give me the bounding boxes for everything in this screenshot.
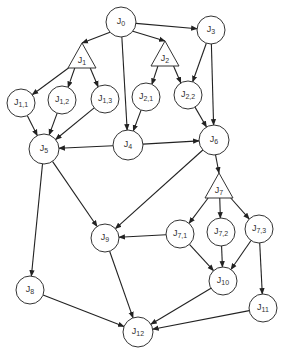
edge-j3-to-j2-2 <box>193 43 207 82</box>
edge-j0-to-j2 <box>133 31 165 41</box>
node-j12: J12 <box>123 317 153 347</box>
node-j5: J5 <box>29 134 59 164</box>
node-j2-2: J2,2 <box>174 81 202 109</box>
edge-j0-to-j4 <box>122 37 127 130</box>
edge-j0-to-j3 <box>136 23 197 28</box>
edge-j2-to-j2-1 <box>152 66 158 84</box>
node-j1-1: J1,1 <box>7 89 35 117</box>
edge-j10-to-j12 <box>151 288 211 324</box>
edge-j4-to-j6 <box>143 141 199 144</box>
node-j0: J0 <box>106 7 136 37</box>
edge-j6-to-j7 <box>216 155 219 173</box>
node-j2: J2 <box>151 41 179 66</box>
node-j2-1: J2,1 <box>132 83 160 111</box>
node-j3: J3 <box>197 16 225 44</box>
edge-j1-2-to-j5 <box>49 113 57 135</box>
edge-j7-1-to-j9 <box>119 235 166 238</box>
edge-j7-3-to-j11 <box>260 243 263 294</box>
edge-j3-to-j6 <box>211 44 213 125</box>
edge-j9-to-j12 <box>110 251 133 318</box>
node-j8: J8 <box>16 276 44 304</box>
edge-j7-to-j7-2 <box>220 198 221 218</box>
edge-j1-to-j1-3 <box>90 68 98 87</box>
edge-j5-to-j8 <box>31 164 42 276</box>
node-j6: J6 <box>199 125 229 155</box>
edge-j8-to-j12 <box>43 295 124 326</box>
node-j4: J4 <box>113 130 143 160</box>
edge-j5-to-j9 <box>52 161 97 226</box>
nodes-layer: J0J1J2J3J1,1J1,2J1,3J2,1J2,2J4J5J6J7J7,1… <box>7 7 277 347</box>
node-j1-2: J1,2 <box>48 86 76 114</box>
node-j9: J9 <box>91 224 119 252</box>
edge-j0-to-j1 <box>82 32 110 43</box>
edge-j2-1-to-j4 <box>133 110 141 131</box>
edge-j7-to-j7-1 <box>189 198 208 223</box>
edge-j1-to-j1-2 <box>68 68 75 87</box>
node-j7: J7 <box>205 173 233 198</box>
node-j10: J10 <box>209 267 237 295</box>
edge-j11-to-j12 <box>153 311 250 330</box>
node-j11: J11 <box>249 294 277 322</box>
edge-j7-1-to-j10 <box>189 244 213 270</box>
node-j1: J1 <box>68 43 96 68</box>
edge-j6-to-j9 <box>115 150 202 229</box>
node-j7-2: J7,2 <box>207 218 235 246</box>
edge-j7-2-to-j10 <box>222 246 223 267</box>
edge-j2-2-to-j6 <box>195 107 206 127</box>
node-j1-3: J1,3 <box>91 85 119 113</box>
node-j7-3: J7,3 <box>245 215 273 243</box>
edge-j2-to-j2-2 <box>174 66 181 83</box>
edge-j4-to-j5 <box>59 146 113 149</box>
edge-j1-1-to-j5 <box>27 116 37 136</box>
edge-j7-3-to-j10 <box>231 241 251 270</box>
job-dependency-diagram: J0J1J2J3J1,1J1,2J1,3J2,1J2,2J4J5J6J7J7,1… <box>0 0 285 356</box>
edge-j7-to-j7-3 <box>231 198 249 219</box>
node-j7-1: J7,1 <box>166 220 194 248</box>
diagram-canvas: J0J1J2J3J1,1J1,2J1,3J2,1J2,2J4J5J6J7J7,1… <box>0 0 285 356</box>
